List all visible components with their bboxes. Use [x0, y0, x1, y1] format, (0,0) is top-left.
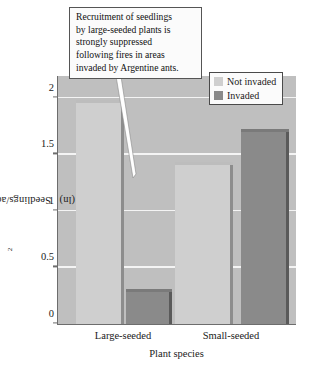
- legend-label-not-invaded: Not invaded: [227, 76, 276, 88]
- bar-side-face: [169, 292, 172, 324]
- ytick-label-2: 2: [49, 82, 54, 93]
- bar-front-face: [175, 165, 230, 324]
- legend-swatch-invaded: [214, 91, 223, 100]
- y-axis-label: Seedlings/adult plant/m2 (ln): [4, 76, 20, 325]
- annotation-line-5: invaded by Argentine ants.: [76, 62, 196, 75]
- bar-front-face: [241, 132, 286, 324]
- ytick-mark-0: [53, 322, 58, 323]
- ytick-mark-0-5: [53, 266, 58, 267]
- ytick-label-1-5: 1.5: [41, 139, 54, 150]
- annotation-line-4: following fires in areas: [76, 49, 196, 62]
- legend-swatch-not-invaded: [214, 77, 223, 86]
- y-axis-label-suffix: (ln): [0, 195, 75, 206]
- annotation-line-1: Recruitment of seedlings: [76, 11, 196, 24]
- ytick-mark-2: [53, 96, 58, 97]
- bar-small-seeded-not-invaded: [175, 162, 233, 324]
- bar-front-face: [126, 292, 169, 324]
- ytick-label-0-5: 0.5: [41, 252, 54, 263]
- bar-side-face: [121, 103, 124, 324]
- xtick-label-small-seeded: Small-seeded: [203, 330, 260, 341]
- x-axis-label: Plant species: [57, 348, 296, 359]
- bar-small-seeded-invaded: [241, 129, 289, 324]
- legend: Not invaded Invaded: [209, 72, 283, 105]
- ytick-label-0: 0: [49, 308, 54, 319]
- legend-item-invaded: Invaded: [214, 90, 276, 102]
- annotation-line-3: strongly suppressed: [76, 36, 196, 49]
- legend-label-invaded: Invaded: [227, 90, 259, 102]
- bar-chart-figure: 2 1.5 1 0.5 0 Seedlings/a: [0, 0, 319, 365]
- annotation-callout: Recruitment of seedlings by large-seeded…: [69, 7, 202, 79]
- bar-large-seeded-invaded: [126, 289, 172, 324]
- bar-front-face: [76, 103, 121, 324]
- bar-side-face: [230, 165, 233, 324]
- plot-area: 2 1.5 1 0.5 0: [57, 76, 296, 325]
- bar-large-seeded-not-invaded: [76, 100, 124, 324]
- bar-side-face: [286, 132, 289, 324]
- xtick-label-large-seeded: Large-seeded: [95, 330, 151, 341]
- legend-item-not-invaded: Not invaded: [214, 76, 276, 88]
- annotation-line-2: by large-seeded plants is: [76, 24, 196, 37]
- y-axis-label-exponent: 2: [6, 248, 14, 252]
- ytick-mark-1: [53, 209, 58, 210]
- ytick-mark-1-5: [53, 153, 58, 154]
